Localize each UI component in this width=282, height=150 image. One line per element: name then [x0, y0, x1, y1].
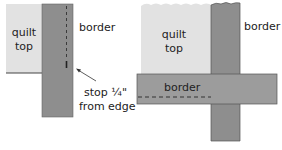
- stop-note-line-2: from edge: [79, 100, 136, 113]
- arrow-shaft: [78, 70, 96, 81]
- right-diagram: quilt top border border: [137, 3, 281, 142]
- stop-note-line-1: stop ¼": [84, 86, 127, 99]
- arrow-head-icon: [76, 69, 81, 73]
- left-quilt-label-2: top: [15, 40, 33, 53]
- border-attachment-diagram: quilt top border stop ¼" from edge quilt…: [0, 0, 282, 150]
- left-border-label: border: [79, 21, 116, 34]
- right-quilt-label-1: quilt: [162, 28, 187, 41]
- right-quilt-label-2: top: [165, 42, 183, 55]
- right-horizontal-border: [137, 74, 277, 104]
- right-vertical-border: [211, 3, 240, 142]
- right-horizontal-border-label: border: [164, 81, 201, 94]
- left-diagram: quilt top border stop ¼" from edge: [6, 4, 136, 117]
- left-border-strip: [42, 4, 73, 117]
- right-vertical-border-label: border: [244, 20, 281, 33]
- left-quilt-label-1: quilt: [12, 26, 37, 39]
